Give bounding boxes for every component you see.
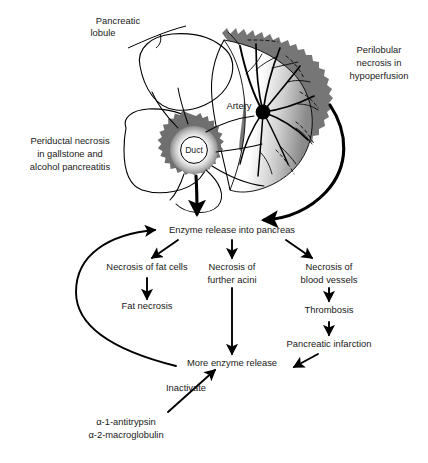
label-perilobular-line3: hypoperfusion [350,70,409,81]
label-artery: Artery [226,100,251,111]
anatomy-illustration [124,26,333,213]
node-necrosis-further-acini-line2: further acini [208,274,257,285]
arrow-feedback-loop [76,230,176,366]
artery-node-dot [256,105,271,120]
node-thrombosis: Thrombosis [305,304,354,315]
arrow-infarction-to-more-enzyme [294,354,318,367]
node-enzyme-release: Enzyme release into pancreas [169,224,295,235]
node-fat-necrosis: Fat necrosis [121,300,172,311]
node-necrosis-blood-vessels-line1: Necrosis of [306,261,353,272]
node-inhibitor-line1: α-1-antitrypsin [96,416,156,427]
label-pancreatic-lobule-line2: lobule [90,27,115,38]
node-inhibitor-line2: α-2-macroglobulin [88,429,163,440]
arrow-duct-to-enzyme-release [196,176,197,214]
label-periductal-line2: in gallstone and [37,148,103,159]
label-periductal-line3: alcohol pancreatitis [30,161,111,172]
node-pancreatic-infarction: Pancreatic infarction [287,338,372,349]
label-perilobular-line1: Perilobular [357,44,402,55]
node-necrosis-further-acini-line1: Necrosis of [209,261,256,272]
node-necrosis-blood-vessels-line2: blood vessels [301,274,358,285]
lobule-outline-upper-left [139,34,232,111]
diagram-canvas: Pancreatic lobule Perilobular necrosis i… [0,0,428,463]
node-more-enzyme-release: More enzyme release [187,357,277,368]
node-necrosis-fat-cells: Necrosis of fat cells [106,261,188,272]
node-inactivate: Inactivate [166,382,206,393]
label-perilobular-line2: necrosis in [357,57,402,68]
label-pancreatic-lobule-line1: Pancreatic [96,15,141,26]
label-duct: Duct [185,145,203,155]
pancreatitis-diagram: Pancreatic lobule Perilobular necrosis i… [0,0,428,463]
arrow-enzyme-to-fat-cells [152,240,178,258]
label-periductal-line1: Periductal necrosis [30,135,110,146]
arrow-enzyme-to-blood-vessels [286,240,312,258]
